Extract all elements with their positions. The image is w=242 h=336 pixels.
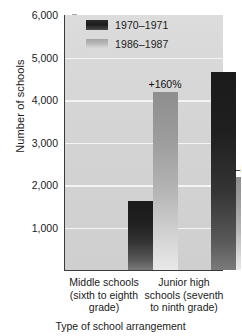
annotation-0: +160% xyxy=(149,78,182,90)
bar-chart-figure: Number of schools 1,0002,0003,0004,0005,… xyxy=(0,0,241,336)
legend-label-1: 1986–1987 xyxy=(115,38,168,50)
gridline-3000 xyxy=(65,143,223,145)
gridline-2000 xyxy=(65,185,223,187)
y-tick-label-1000: 1,000 xyxy=(20,222,58,234)
y-tick-label-6000: 6,000 xyxy=(20,9,58,21)
legend-label-0: 1970–1971 xyxy=(115,19,168,31)
gridline-4000 xyxy=(65,100,223,102)
chart-legend: 1970–19711986–1987 xyxy=(86,17,168,55)
category-label-1: Junior highschools (seventhto ninth grad… xyxy=(144,276,224,314)
category-label-line: to ninth grade) xyxy=(144,301,224,314)
category-label-line: schools (seventh xyxy=(144,289,224,302)
category-label-0: Middle schools(sixth to eighthgrade) xyxy=(64,276,144,314)
category-label-line: Middle schools xyxy=(64,276,144,289)
category-label-line: grade) xyxy=(64,301,144,314)
y-axis-tick-labels: 1,0002,0003,0004,0005,0006,000 xyxy=(14,0,58,336)
y-tick-label-3000: 3,000 xyxy=(20,137,58,149)
gridline-5000 xyxy=(65,58,223,60)
y-tick-label-2000: 2,000 xyxy=(20,179,58,191)
bar-g1-s1 xyxy=(236,177,242,270)
category-label-line: Junior high xyxy=(144,276,224,289)
x-axis-title: Type of school arrangement xyxy=(0,320,241,332)
legend-item-1: 1986–1987 xyxy=(86,36,168,51)
y-tick-label-5000: 5,000 xyxy=(20,52,58,64)
bar-g1-s0 xyxy=(211,72,236,270)
legend-swatch-1 xyxy=(86,39,108,49)
x-axis-category-labels: Middle schools(sixth to eighthgrade)Juni… xyxy=(64,276,224,314)
bar-g0-s0 xyxy=(128,201,153,270)
annotation-1: –53% xyxy=(235,163,241,175)
y-tick-label-4000: 4,000 xyxy=(20,94,58,106)
legend-swatch-0 xyxy=(86,20,108,30)
legend-item-0: 1970–1971 xyxy=(86,17,168,32)
category-label-line: (sixth to eighth xyxy=(64,289,144,302)
bar-g0-s1 xyxy=(153,92,178,271)
